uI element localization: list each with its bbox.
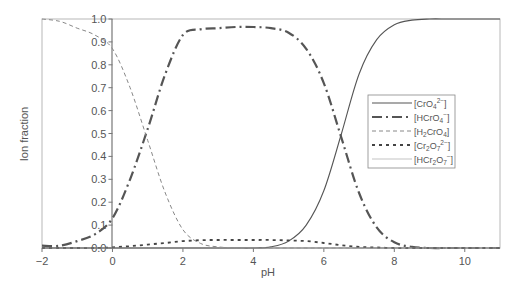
x-tick-label: 0 [109, 255, 115, 267]
x-tick-label: 4 [250, 255, 256, 267]
y-axis-ticks: 0.00.10.20.30.40.50.60.70.80.91.0 [91, 13, 112, 254]
y-tick-label: 0.5 [91, 128, 106, 140]
y-tick-label: 0.4 [91, 150, 106, 162]
y-tick-label: 0.6 [91, 105, 106, 117]
y-tick-label: 0.9 [91, 36, 106, 48]
y-tick-label: 0.8 [91, 59, 106, 71]
x-tick-label: 10 [459, 255, 471, 267]
y-tick-label: 1.0 [91, 13, 106, 25]
x-tick-label: −2 [36, 255, 49, 267]
ion-fraction-chart: 0.00.10.20.30.40.50.60.70.80.91.0 −20246… [0, 0, 520, 293]
y-tick-label: 0.2 [91, 196, 106, 208]
y-tick-label: 0.3 [91, 173, 106, 185]
x-axis-title: pH [261, 266, 275, 278]
legend: [CrO42−][HCrO4−][H2CrO4][Cr2O72−][HCr2O7… [368, 95, 455, 168]
x-tick-label: 8 [391, 255, 397, 267]
y-axis-title: Ion fraction [18, 107, 30, 161]
x-tick-label: 2 [180, 255, 186, 267]
y-tick-label: 0.7 [91, 82, 106, 94]
y-tick-label: 0.1 [91, 219, 106, 231]
x-tick-label: 6 [321, 255, 327, 267]
